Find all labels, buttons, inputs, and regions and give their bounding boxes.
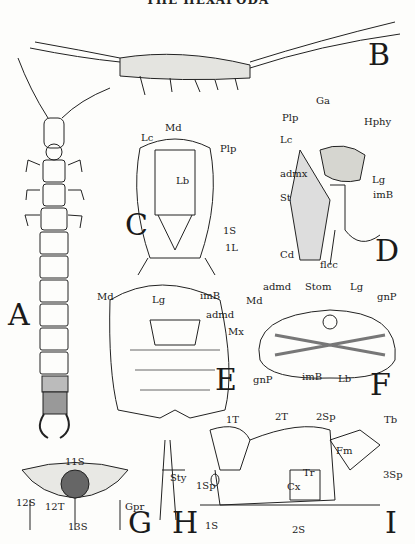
label-d-flcc: flcc xyxy=(320,260,338,270)
label-e-admd: admd xyxy=(206,310,234,320)
label-c-1s: 1S xyxy=(223,226,236,236)
label-d-lg: Lg xyxy=(372,175,385,185)
label-c-plp: Plp xyxy=(220,144,236,154)
figure-e-head-muscles-drawing xyxy=(110,285,229,418)
figure-letter-e: E xyxy=(215,365,237,395)
label-g-gpr: Gpr xyxy=(125,502,144,512)
label-f-imb: imB xyxy=(302,372,322,382)
label-g-12s: 12S xyxy=(16,498,36,508)
label-c-md: Md xyxy=(165,123,182,133)
label-i-cx: Cx xyxy=(287,482,300,492)
figure-letter-a: A xyxy=(8,300,30,330)
label-d-plp: Plp xyxy=(282,113,298,123)
label-f-gnp-top: gnP xyxy=(377,292,397,302)
figure-letter-d: D xyxy=(375,236,399,266)
figure-letter-i: I xyxy=(385,508,397,538)
label-f-md: Md xyxy=(246,296,263,306)
label-e-lg: Lg xyxy=(152,295,165,305)
label-c-lb: Lb xyxy=(176,176,189,186)
label-c-1l: 1L xyxy=(225,243,238,253)
label-f-stom: Stom xyxy=(305,282,331,292)
label-i-fm: Fm xyxy=(336,446,352,456)
figure-letter-h: H xyxy=(172,508,198,538)
figure-letter-c: C xyxy=(125,210,148,240)
label-i-1s: 1S xyxy=(205,521,218,531)
figure-d-mouthparts-drawing xyxy=(290,146,380,265)
label-i-1t: 1T xyxy=(226,415,239,425)
label-f-lg: Lg xyxy=(350,282,363,292)
figure-c-head-drawing xyxy=(137,139,215,275)
label-i-tb: Tb xyxy=(384,415,397,425)
label-d-ga: Ga xyxy=(316,96,330,106)
label-d-st: St xyxy=(280,193,291,203)
label-f-gnp-bottom: gnP xyxy=(253,375,273,385)
label-e-md: Md xyxy=(97,292,114,302)
label-g-11s: 11S xyxy=(65,457,85,467)
label-g-13s: 13S xyxy=(68,522,88,532)
figure-letter-b: B xyxy=(368,40,390,70)
label-i-3sp: 3Sp xyxy=(383,470,403,480)
label-f-lb: Lb xyxy=(338,374,351,384)
figure-i-thorax-drawing xyxy=(200,427,380,505)
figure-b-body-drawing xyxy=(30,22,400,95)
label-d-hphy: Hphy xyxy=(364,117,391,127)
label-f-admd: admd xyxy=(263,282,291,292)
plate-illustrations xyxy=(0,0,415,544)
label-i-2t: 2T xyxy=(275,412,288,422)
label-c-lc: Lc xyxy=(141,133,153,143)
label-i-2sp: 2Sp xyxy=(316,412,336,422)
label-i-1sp: 1Sp xyxy=(196,481,216,491)
label-i-2s: 2S xyxy=(292,525,305,535)
figure-letter-f: F xyxy=(370,370,391,400)
label-f-mx: Mx xyxy=(228,327,244,337)
label-d-imb: imB xyxy=(373,190,393,200)
label-h-sty: Sty xyxy=(170,473,187,483)
label-d-lc: Lc xyxy=(280,135,292,145)
figure-g-genital-drawing xyxy=(22,463,128,531)
label-g-12t: 12T xyxy=(45,502,64,512)
figure-letter-g: G xyxy=(128,508,152,538)
label-d-cd: Cd xyxy=(280,250,294,260)
label-i-tr: Tr xyxy=(303,468,314,478)
figure-a-body-drawing xyxy=(18,58,110,438)
label-d-admx: admx xyxy=(280,169,308,179)
label-e-imb: imB xyxy=(200,291,220,301)
